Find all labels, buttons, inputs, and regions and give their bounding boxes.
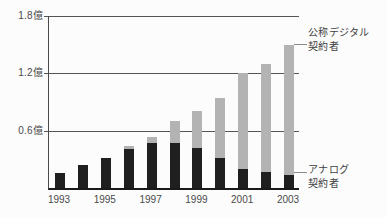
analog-series-label-line1: アナログ	[308, 163, 384, 177]
bar-analog-2003	[284, 175, 294, 188]
y-axis-tick-0.6	[44, 131, 48, 132]
bar-analog-1998	[170, 143, 180, 188]
bar-digital-2001	[238, 73, 248, 169]
bar-analog-2001	[238, 169, 248, 188]
bar-digital-2000	[215, 98, 225, 158]
plot-area	[48, 16, 299, 190]
bar-analog-1994	[78, 165, 88, 188]
y-axis-label-1.8: 1.8億	[0, 11, 43, 21]
bar-digital-1997	[147, 137, 157, 143]
digital-series-label: 公称デジタル 契約者	[308, 26, 384, 53]
digital-leader-line	[294, 44, 307, 45]
y-axis-tick-1.2	[44, 73, 48, 74]
bar-digital-1999	[192, 111, 202, 148]
analog-series-label-line2: 契約者	[308, 177, 384, 191]
x-axis-label-1999: 1999	[178, 194, 214, 205]
x-axis-label-1997: 1997	[133, 194, 169, 205]
bar-group-2000	[215, 98, 225, 188]
bar-analog-1999	[192, 148, 202, 188]
bar-group-1999	[192, 111, 202, 188]
bar-group-2001	[238, 73, 248, 188]
bar-digital-1998	[170, 121, 180, 143]
analog-series-label: アナログ 契約者	[308, 163, 384, 190]
analog-leader-line	[294, 172, 307, 173]
bar-group-1997	[147, 137, 157, 188]
bar-digital-1996	[124, 146, 134, 149]
bar-group-1996	[124, 146, 134, 188]
gridline-1.8	[49, 16, 299, 17]
bar-analog-2002	[261, 172, 271, 188]
bar-analog-1997	[147, 143, 157, 188]
bar-analog-2000	[215, 158, 225, 188]
bar-group-2002	[261, 64, 271, 188]
digital-series-label-line1: 公称デジタル	[308, 26, 384, 40]
bar-analog-1996	[124, 149, 134, 188]
bar-analog-1995	[101, 158, 111, 188]
y-axis-label-1.2: 1.2億	[0, 68, 43, 78]
bar-digital-2002	[261, 64, 271, 172]
bar-group-1993	[55, 173, 65, 188]
y-axis-tick-1.8	[44, 16, 48, 17]
bar-analog-1993	[55, 173, 65, 188]
x-axis-label-1995: 1995	[87, 194, 123, 205]
bar-group-1995	[101, 158, 111, 188]
y-axis-label-0.6: 0.6億	[0, 126, 43, 136]
stacked-bar-chart: 公称デジタル 契約者 アナログ 契約者 0.6億1.2億1.8億19931995…	[0, 0, 386, 218]
bar-digital-2003	[284, 45, 294, 175]
x-axis-label-2003: 2003	[270, 194, 306, 205]
bar-group-2003	[284, 45, 294, 188]
x-axis-label-2001: 2001	[224, 194, 260, 205]
bar-group-1998	[170, 121, 180, 188]
x-axis-label-1993: 1993	[41, 194, 77, 205]
digital-series-label-line2: 契約者	[308, 40, 384, 54]
bar-group-1994	[78, 165, 88, 188]
